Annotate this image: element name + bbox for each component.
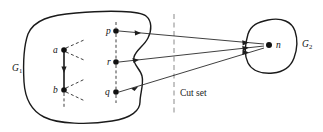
arrowhead-a-to-b [61, 67, 66, 73]
edge-a-branch-up [66, 40, 84, 48]
node-r-dot [113, 59, 119, 65]
edge-b-branch-down [66, 92, 85, 101]
edge-b-branch-up [66, 79, 85, 88]
node-label-p: p [105, 26, 111, 36]
node-n-dot [266, 42, 272, 48]
node-label-a: a [53, 45, 58, 55]
graph-cut-set-figure: a b p r q n G1 G2 Cut set [0, 0, 323, 132]
region-g1-outline [23, 11, 150, 123]
node-b-dot [61, 87, 67, 93]
node-label-b: b [53, 85, 58, 95]
node-p-dot [113, 28, 119, 34]
node-q-dot [113, 89, 119, 95]
node-label-n: n [276, 40, 281, 50]
region-label-g2: G2 [302, 39, 312, 50]
edge-q-to-n [119, 48, 264, 92]
region-label-g1: G1 [12, 63, 22, 74]
arrowhead-r-out [132, 58, 139, 63]
edge-r-to-n [119, 46, 264, 62]
node-label-q: q [105, 87, 110, 97]
cut-set-label: Cut set [180, 88, 207, 98]
diagram-canvas: a b p r q n G1 G2 Cut set [0, 0, 323, 132]
node-a-dot [61, 47, 67, 53]
arrowhead-p-out [135, 30, 141, 35]
edge-a-branch-down [66, 52, 84, 60]
node-label-r: r [107, 57, 111, 67]
